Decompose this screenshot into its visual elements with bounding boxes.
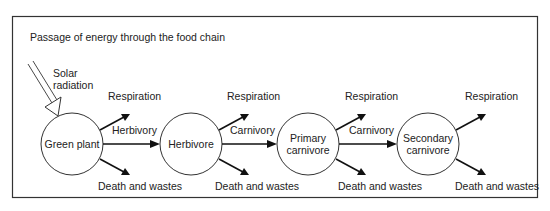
node-secondary-carnivore: Secondary carnivore [397,113,459,175]
respiration-label: Respiration [227,90,280,102]
transfer-label-herbivory: Herbivory [112,124,158,136]
respiration-label: Respiration [465,90,518,102]
diagram-title: Passage of energy through the food chain [30,31,225,43]
death-wastes-label: Death and wastes [455,180,539,192]
death-wastes-label: Death and wastes [338,180,422,192]
respiration-label: Respiration [345,90,398,102]
solar-label-line1: Solar [53,67,78,79]
node-label-line1: Primary [290,132,327,144]
node-label-line2: carnivore [286,144,329,156]
node-label: Herbivore [168,138,214,150]
respiration-label: Respiration [108,90,161,102]
node-green-plant: Green plant [41,113,103,175]
node-label-line2: carnivore [406,144,449,156]
death-wastes-label: Death and wastes [98,180,182,192]
food-chain-diagram: Passage of energy through the food chain… [0,0,550,211]
node-herbivore: Herbivore [160,113,222,175]
node-primary-carnivore: Primary carnivore [277,113,339,175]
transfer-label-carnivory-2: Carnivory [349,124,395,136]
node-label-line1: Secondary [403,132,454,144]
death-wastes-label: Death and wastes [215,180,299,192]
solar-label-line2: radiation [53,79,93,91]
diagram-frame [13,17,538,198]
transfer-label-carnivory-1: Carnivory [230,124,276,136]
node-label: Green plant [45,138,100,150]
